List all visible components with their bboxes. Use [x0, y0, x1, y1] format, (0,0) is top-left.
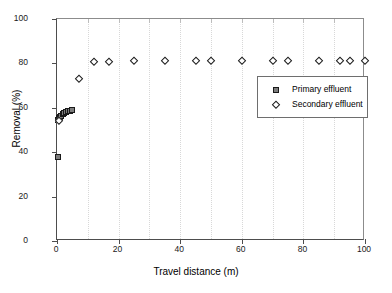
data-point-secondary-effluent [89, 58, 98, 67]
x-axis-minor-tick [242, 19, 243, 23]
x-axis-tick-label: 40 [164, 245, 194, 254]
data-point-secondary-effluent [129, 57, 138, 66]
legend-swatch-square-icon [269, 85, 283, 95]
gridline-vertical [242, 19, 243, 239]
data-point-secondary-effluent [360, 57, 369, 66]
x-axis-minor-tick [119, 19, 120, 23]
x-axis-title: Travel distance (m) [0, 266, 392, 277]
gridline-vertical [149, 19, 150, 239]
x-axis-tick-label: 100 [349, 245, 379, 254]
y-axis-tick-label: 0 [2, 236, 28, 245]
x-axis-tick-label: 20 [103, 245, 133, 254]
data-point-secondary-effluent [105, 57, 114, 66]
y-axis-tick [52, 19, 57, 20]
data-point-primary-effluent [69, 107, 75, 113]
gridline-vertical [273, 19, 274, 239]
chart-figure: Removal (%) Travel distance (m) Primary … [0, 0, 392, 293]
y-axis-tick [52, 108, 57, 109]
gridline-vertical [180, 19, 181, 239]
legend-item-secondary-effluent: Secondary effluent [258, 97, 367, 112]
data-point-secondary-effluent [191, 57, 200, 66]
chart-legend: Primary effluent Secondary effluent [257, 76, 368, 118]
gridline-vertical [88, 19, 89, 239]
y-axis-tick-label: 80 [2, 58, 28, 67]
data-point-secondary-effluent [345, 57, 354, 66]
x-axis-minor-tick [180, 19, 181, 23]
y-axis-tick-label: 20 [2, 192, 28, 201]
x-axis-minor-tick [334, 19, 335, 23]
plot-area [56, 18, 364, 240]
x-axis-tick-label: 60 [226, 245, 256, 254]
data-point-secondary-effluent [74, 74, 83, 83]
x-axis-minor-tick [303, 19, 304, 23]
legend-swatch-diamond-icon [269, 100, 283, 110]
x-axis-minor-tick [149, 19, 150, 23]
gridline-vertical [303, 19, 304, 239]
gridline-vertical [334, 19, 335, 239]
x-axis-minor-tick [88, 19, 89, 23]
data-point-secondary-effluent [314, 57, 323, 66]
data-point-primary-effluent [55, 154, 61, 160]
x-axis-minor-tick [273, 19, 274, 23]
legend-label-secondary-effluent: Secondary effluent [283, 100, 363, 109]
x-axis-minor-tick [211, 19, 212, 23]
x-axis-tick-label: 80 [287, 245, 317, 254]
y-axis-tick [52, 197, 57, 198]
legend-item-primary-effluent: Primary effluent [258, 82, 367, 97]
legend-label-primary-effluent: Primary effluent [283, 85, 351, 94]
y-axis-tick-label: 40 [2, 147, 28, 156]
x-axis-tick-label: 0 [41, 245, 71, 254]
y-axis-tick [52, 63, 57, 64]
y-axis-tick-label: 100 [2, 14, 28, 23]
data-point-secondary-effluent [283, 57, 292, 66]
data-point-secondary-effluent [336, 57, 345, 66]
data-point-secondary-effluent [237, 57, 246, 66]
y-axis-tick-label: 60 [2, 103, 28, 112]
data-point-secondary-effluent [268, 57, 277, 66]
gridline-vertical [119, 19, 120, 239]
data-point-secondary-effluent [160, 57, 169, 66]
gridline-vertical [211, 19, 212, 239]
data-point-secondary-effluent [206, 57, 215, 66]
